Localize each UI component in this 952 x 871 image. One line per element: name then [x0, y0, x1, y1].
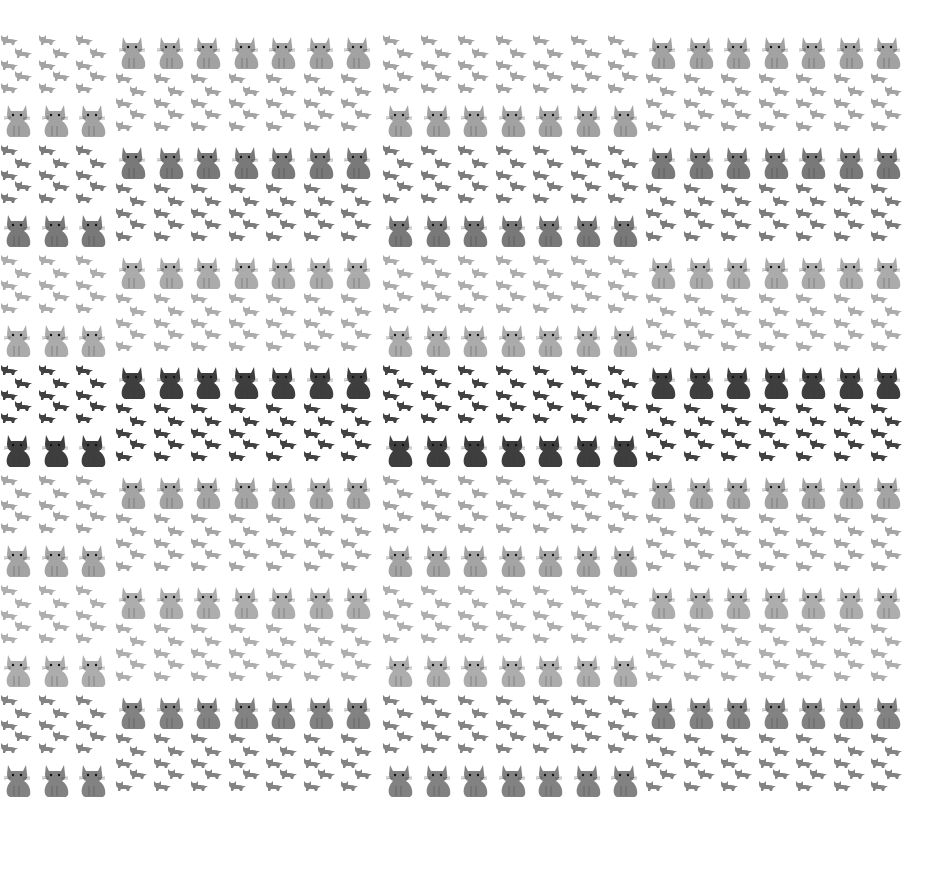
cat-icon — [572, 542, 602, 578]
kitten-icon — [340, 72, 358, 83]
kitten-icon — [758, 560, 776, 571]
kitten-cluster — [228, 182, 266, 252]
kitten-cluster — [457, 584, 495, 654]
pattern-column — [870, 252, 906, 364]
pattern-column — [420, 32, 456, 144]
kitten-icon — [495, 302, 513, 313]
kitten-icon — [659, 305, 677, 316]
kitten-cluster — [833, 292, 871, 362]
kitten-icon — [354, 85, 372, 96]
kitten-icon — [697, 108, 715, 119]
pattern-column — [758, 32, 794, 144]
kitten-icon — [228, 120, 246, 131]
kitten-icon — [0, 522, 18, 533]
pattern-column — [683, 362, 719, 474]
kitten-icon — [570, 34, 588, 45]
kitten-icon — [659, 548, 677, 559]
kitten-cluster — [0, 254, 38, 324]
kitten-cluster — [570, 364, 608, 434]
kitten-icon — [38, 59, 56, 70]
pattern-column — [607, 582, 643, 694]
kitten-cluster — [190, 402, 228, 472]
pattern-column — [265, 32, 301, 144]
kitten-icon — [420, 474, 438, 485]
kitten-cluster — [570, 144, 608, 214]
kitten-icon — [758, 622, 776, 633]
kitten-icon — [75, 192, 93, 203]
kitten-icon — [303, 622, 321, 633]
kitten-icon — [153, 182, 171, 193]
kitten-icon — [265, 230, 283, 241]
kitten-icon — [532, 144, 550, 155]
cat-icon — [760, 144, 790, 180]
kitten-icon — [809, 525, 827, 536]
pattern-column — [532, 142, 568, 254]
kitten-icon — [795, 560, 813, 571]
cat-icon — [384, 762, 414, 798]
kitten-icon — [0, 59, 18, 70]
kitten-cluster — [795, 402, 833, 472]
kitten-icon — [734, 438, 752, 449]
pattern-column — [457, 582, 493, 694]
pattern-column — [870, 362, 906, 474]
kitten-icon — [495, 364, 513, 375]
kitten-icon — [847, 85, 865, 96]
kitten-icon — [303, 757, 321, 768]
kitten-icon — [607, 302, 625, 313]
cat-icon — [760, 364, 790, 400]
kitten-icon — [697, 218, 715, 229]
kitten-icon — [89, 70, 107, 81]
kitten-icon — [228, 402, 246, 413]
kitten-icon — [354, 548, 372, 559]
kitten-icon — [265, 670, 283, 681]
kitten-cluster — [720, 182, 758, 252]
kitten-cluster — [0, 144, 38, 214]
kitten-icon — [204, 305, 222, 316]
pattern-column — [532, 252, 568, 364]
kitten-icon — [396, 620, 414, 631]
kitten-icon — [75, 82, 93, 93]
kitten-icon — [870, 450, 888, 461]
kitten-icon — [204, 548, 222, 559]
kitten-icon — [532, 254, 550, 265]
cat-icon — [872, 364, 902, 400]
pattern-column — [833, 32, 869, 144]
pattern-column — [758, 252, 794, 364]
kitten-icon — [546, 597, 564, 608]
kitten-icon — [14, 597, 32, 608]
kitten-cluster — [758, 512, 796, 582]
kitten-icon — [772, 548, 790, 559]
cat-icon — [685, 474, 715, 510]
pattern-column — [382, 582, 418, 694]
kitten-icon — [382, 389, 400, 400]
kitten-cluster — [645, 622, 683, 692]
kitten-icon — [457, 522, 475, 533]
kitten-icon — [340, 537, 358, 548]
kitten-icon — [870, 230, 888, 241]
kitten-icon — [720, 732, 738, 743]
kitten-icon — [884, 415, 902, 426]
kitten-icon — [645, 647, 663, 658]
pattern-column — [382, 472, 418, 584]
kitten-icon — [167, 438, 185, 449]
kitten-icon — [645, 450, 663, 461]
pattern-column — [532, 32, 568, 144]
kitten-icon — [115, 207, 133, 218]
kitten-icon — [758, 120, 776, 131]
kitten-cluster — [495, 694, 533, 764]
cat-icon — [872, 694, 902, 730]
kitten-icon — [772, 218, 790, 229]
kitten-icon — [809, 548, 827, 559]
kitten-icon — [584, 707, 602, 718]
kitten-icon — [884, 328, 902, 339]
kitten-icon — [645, 512, 663, 523]
kitten-cluster — [457, 254, 495, 324]
kitten-icon — [734, 415, 752, 426]
kitten-cluster — [38, 144, 76, 214]
kitten-icon — [0, 192, 18, 203]
pattern-column — [38, 692, 74, 804]
kitten-icon — [870, 757, 888, 768]
kitten-icon — [317, 438, 335, 449]
kitten-icon — [190, 427, 208, 438]
pattern-column — [228, 582, 264, 694]
